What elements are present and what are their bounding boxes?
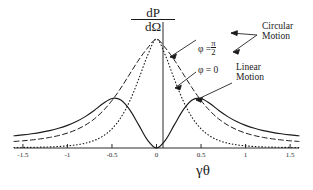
y-axis-title-numerator: dP <box>131 6 175 19</box>
leader-circular-motion-lower <box>233 35 257 54</box>
radiation-pattern-figure: dP dΩ γθ φ = π2 φ = 0 Circular Motion Li… <box>0 0 313 190</box>
circular-motion-line-2: Motion <box>262 31 290 41</box>
annotation-circular-motion: Circular Motion <box>262 22 293 42</box>
x-axis-tick-label: 1.5 <box>276 152 304 159</box>
annotation-phi-pi-over-2: φ = π2 <box>198 30 216 57</box>
pi-over-two-fraction: π2 <box>211 30 215 57</box>
leader-phi-zero <box>175 72 196 90</box>
linear-motion-line-2: Motion <box>236 72 264 82</box>
curve-circular-phi-pi-over-2 <box>14 39 299 141</box>
curve-linear-motion <box>14 98 299 148</box>
fraction-denominator: 2 <box>211 47 215 57</box>
x-axis-tick-label: -1 <box>53 152 81 159</box>
annotation-linear-motion: Linear Motion <box>236 63 264 83</box>
x-axis-tick-label: -0.5 <box>98 152 126 159</box>
x-axis-tick-label: 1 <box>232 152 260 159</box>
x-axis-tick-label: 0 <box>143 152 171 159</box>
annotation-phi-pi-over-2-lead: φ = <box>198 44 211 54</box>
x-axis-title: γθ <box>196 163 210 178</box>
circular-motion-line-1: Circular <box>262 21 293 31</box>
curves-group <box>14 39 299 148</box>
linear-motion-line-1: Linear <box>236 62 261 72</box>
leader-phi-pi-over-2 <box>170 40 196 59</box>
x-axis-tick-label: -1.5 <box>9 152 37 159</box>
x-axis-tick-label: 0.5 <box>187 152 215 159</box>
curve-circular-phi-zero <box>14 39 299 147</box>
leader-linear-motion <box>196 83 232 102</box>
y-axis-title: dP dΩ <box>131 6 175 34</box>
fraction-numerator: π <box>211 39 215 48</box>
annotation-phi-zero: φ = 0 <box>198 66 218 76</box>
leader-circular-motion-upper <box>231 31 257 36</box>
y-axis-title-denominator: dΩ <box>131 19 175 33</box>
